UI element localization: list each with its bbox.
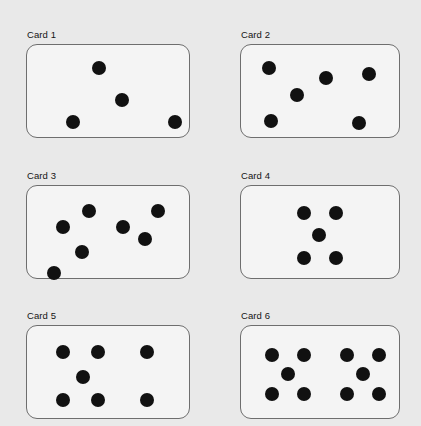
cards-canvas: Card 1Card 2Card 3Card 4Card 5Card 6 — [0, 0, 421, 426]
dot — [264, 114, 278, 128]
dot — [340, 348, 354, 362]
dot — [56, 345, 70, 359]
card-surface — [26, 44, 190, 138]
dot — [281, 367, 295, 381]
dot — [91, 393, 105, 407]
card-surface — [26, 185, 190, 279]
card-label: Card 6 — [241, 310, 270, 321]
dot — [372, 348, 386, 362]
dot — [56, 220, 70, 234]
dot — [168, 115, 182, 129]
dot — [265, 348, 279, 362]
dot — [116, 220, 130, 234]
card-label: Card 4 — [241, 170, 270, 181]
dot — [297, 206, 311, 220]
dot — [140, 393, 154, 407]
dot — [340, 387, 354, 401]
dot — [115, 93, 129, 107]
dot — [352, 116, 366, 130]
dot — [151, 204, 165, 218]
dot — [138, 232, 152, 246]
dot — [91, 345, 105, 359]
card-label: Card 3 — [27, 170, 56, 181]
card-surface — [240, 185, 400, 279]
dot — [56, 393, 70, 407]
dot — [329, 206, 343, 220]
dot — [76, 370, 90, 384]
dot — [372, 387, 386, 401]
dot — [319, 71, 333, 85]
dot — [265, 387, 279, 401]
dot — [297, 348, 311, 362]
dot — [262, 61, 276, 75]
dot — [47, 266, 61, 280]
dot — [82, 204, 96, 218]
dot — [297, 251, 311, 265]
card-label: Card 2 — [241, 29, 270, 40]
dot — [329, 251, 343, 265]
card-surface — [26, 325, 190, 419]
dot — [290, 88, 304, 102]
dot — [66, 115, 80, 129]
card-surface — [240, 325, 400, 419]
card-label: Card 5 — [27, 310, 56, 321]
dot — [312, 228, 326, 242]
dot — [362, 67, 376, 81]
card-surface — [240, 44, 400, 138]
card-label: Card 1 — [27, 29, 56, 40]
dot — [140, 345, 154, 359]
dot — [92, 61, 106, 75]
dot — [356, 367, 370, 381]
dot — [75, 245, 89, 259]
dot — [297, 387, 311, 401]
